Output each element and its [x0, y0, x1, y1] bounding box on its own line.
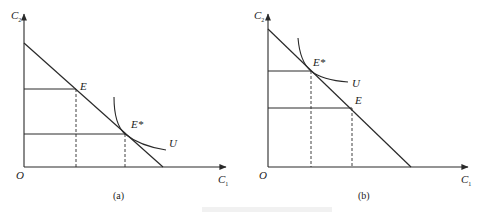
- budget-line-a: [24, 43, 163, 167]
- intertemporal-choice-diagram: C2 C1 O E E* U (a) C2 C1 O E* E U (b): [0, 0, 477, 212]
- budget-line-b: [268, 29, 411, 167]
- origin-label-a: O: [16, 169, 24, 181]
- panel-a: C2 C1 O E E* U (a): [11, 9, 228, 202]
- origin-label-b: O: [259, 169, 267, 181]
- caption-a: (a): [113, 190, 124, 202]
- y-axis-label-b: C2: [254, 9, 264, 23]
- point-e-star-label-b: E*: [312, 56, 326, 68]
- point-e-star-label-a: E*: [130, 118, 144, 130]
- figure-caption-faint: [202, 207, 332, 212]
- curve-u-label-b: U: [352, 77, 361, 89]
- curve-u-label-a: U: [169, 137, 178, 149]
- point-e-label-b: E: [354, 94, 362, 106]
- panel-b: C2 C1 O E* E U (b): [254, 9, 471, 202]
- y-axis-label-a: C2: [11, 9, 21, 23]
- caption-b: (b): [358, 190, 370, 202]
- x-axis-label-a: C1: [218, 173, 228, 187]
- x-axis-label-b: C1: [461, 173, 471, 187]
- point-e-label-a: E: [79, 80, 87, 92]
